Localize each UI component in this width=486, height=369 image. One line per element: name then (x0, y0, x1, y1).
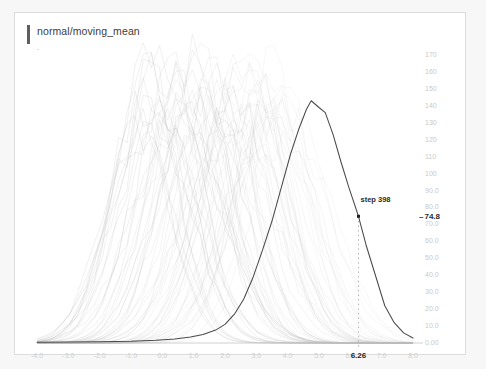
chart-card: normal/moving_mean . 1701601501401301201… (14, 12, 466, 355)
y-axis-tick: 30.0 (425, 288, 439, 296)
y-axis-tick: 0.00 (425, 339, 439, 347)
y-axis-tick: 140 (425, 102, 437, 110)
y-axis-tick: 150 (425, 85, 437, 93)
hover-y-dash: – (419, 212, 423, 221)
distribution-plot[interactable] (15, 13, 467, 356)
y-axis-tick: 110 (425, 153, 436, 161)
y-axis-tick: 120 (425, 136, 437, 144)
x-axis-tick: 3.0 (244, 352, 268, 360)
plot-area[interactable]: 17016015014013012011010090.080.070.060.0… (15, 13, 467, 356)
x-axis-tick: 1.0 (182, 352, 206, 360)
y-axis-tick: 60.0 (425, 237, 439, 245)
background-density-curves (37, 34, 413, 343)
x-axis-tick: 8.0 (401, 352, 425, 360)
hover-y-value: –74.8 (419, 212, 440, 221)
y-axis-tick: 50.0 (425, 254, 439, 262)
x-axis-tick: -4.0 (25, 352, 49, 360)
y-axis-tick: 20.0 (425, 305, 439, 313)
y-axis-tick: 130 (425, 119, 437, 127)
hover-point-marker (357, 215, 360, 218)
x-axis-tick: 0.0 (150, 352, 174, 360)
y-axis-tick: 70.0 (425, 220, 439, 228)
screenshot-root: normal/moving_mean . 1701601501401301201… (0, 0, 486, 369)
y-axis-tick: 40.0 (425, 271, 439, 279)
y-axis-tick: 90.0 (425, 187, 439, 195)
x-axis-tick: -1.0 (119, 352, 143, 360)
x-axis-tick: 2.0 (213, 352, 237, 360)
y-axis-tick: 170 (425, 51, 437, 59)
y-axis-tick: 160 (425, 68, 437, 76)
y-axis-tick: 100 (425, 170, 437, 178)
y-axis-tick: 80.0 (425, 203, 439, 211)
x-axis-tick: 4.0 (276, 352, 300, 360)
y-axis-tick: 10.0 (425, 322, 439, 330)
x-axis-tick: -2.0 (88, 352, 112, 360)
hover-x-value: 6.26 (338, 351, 378, 360)
step-annotation: step 398 (360, 195, 390, 204)
hover-y-number: 74.8 (424, 212, 440, 221)
x-axis-tick: 5.0 (307, 352, 331, 360)
x-axis-tick: -3.0 (56, 352, 80, 360)
